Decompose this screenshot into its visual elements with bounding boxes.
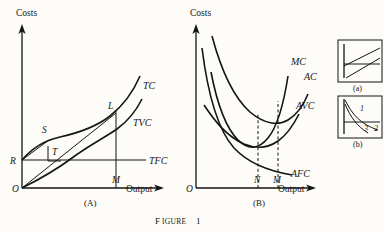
figure-caption-number: 1	[196, 216, 201, 226]
panel-b-x-axis-label: Output	[278, 184, 305, 194]
panel-a-point-label-t: T	[52, 147, 58, 157]
panel-a-curve-label-tfc: TFC	[149, 155, 168, 166]
figure-1-root: Costs Output O R M S T L TC TVC TFC (A)	[0, 0, 384, 232]
inset-b-curve-label-1: 1	[360, 104, 364, 113]
panel-a-point-label-s: S	[42, 125, 47, 135]
panel-b-y-axis-label: Costs	[190, 8, 211, 18]
panel-a-y-axis-label: Costs	[16, 8, 37, 18]
panel-b-curve-ac	[212, 36, 308, 123]
panel-b-origin-label: O	[186, 184, 193, 194]
panel-b-tick-label-n: N	[253, 175, 261, 185]
panel-a-chord-rs	[22, 140, 49, 160]
panel-a-curve-label-tc: TC	[143, 80, 156, 91]
panel-a: Costs Output O R M S T L TC TVC TFC (A)	[9, 8, 168, 208]
panel-a-intercept-label-r: R	[9, 156, 16, 166]
panel-b-curve-mc	[211, 72, 288, 147]
inset-a: (a)	[338, 40, 382, 93]
panel-b-curve-label-afc: AFC	[290, 168, 310, 179]
inset-a-line-shallow	[346, 58, 380, 78]
panel-a-x-axis-label: Output	[126, 184, 153, 194]
panel-b-name: (B)	[253, 198, 265, 208]
panel-b: Costs Output O N M MC AC AVC AFC (B)	[186, 8, 317, 208]
figure-caption: F IGURE 1	[155, 216, 201, 226]
inset-b-curve-label-2: 2	[374, 124, 378, 133]
panel-b-y-axis	[192, 24, 199, 188]
figure-1-canvas: Costs Output O R M S T L TC TVC TFC (A)	[0, 0, 384, 232]
panel-a-name: (A)	[84, 198, 97, 208]
figure-caption-lead: F	[155, 216, 160, 226]
panel-b-curve-label-ac: AC	[303, 71, 317, 82]
inset-b: 1 2 3 (b)	[338, 96, 382, 149]
panel-a-point-label-l: L	[107, 101, 113, 111]
panel-a-origin-label: O	[12, 184, 19, 194]
inset-b-curve-label-3: 3	[363, 124, 368, 133]
panel-a-y-axis	[18, 24, 25, 188]
panel-a-curve-label-tvc: TVC	[133, 117, 152, 128]
panel-b-curve-label-avc: AVC	[295, 100, 315, 111]
panel-a-tick-label-m: M	[111, 175, 121, 185]
inset-a-line-steep	[344, 48, 380, 66]
inset-a-caption: (a)	[353, 84, 362, 93]
panel-a-ray-ol	[22, 113, 116, 188]
panel-a-curve-tvc	[22, 99, 142, 188]
inset-b-caption: (b)	[353, 140, 363, 149]
panel-b-tick-label-m: M	[272, 175, 282, 185]
panel-b-curve-label-mc: MC	[290, 56, 306, 67]
panel-b-curve-avc	[204, 105, 299, 147]
figure-caption-word: IGURE	[162, 217, 187, 226]
